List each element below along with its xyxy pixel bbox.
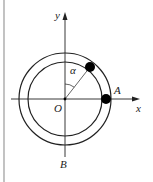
point-B-label: B [60,158,67,170]
x-axis-label: x [135,102,141,114]
angle-alpha-label: α [70,64,76,76]
origin-label: O [54,102,62,114]
point-A-label: A [113,84,121,96]
y-axis-label: y [54,9,60,21]
x-axis-arrow-icon [132,97,140,102]
ball-upper [85,62,95,72]
angle-arc [65,84,74,87]
origin-dot [64,98,67,101]
ball-at-A [101,94,111,104]
circular-track-diagram: y x O A B α [0,0,153,182]
y-axis-arrow-icon [63,12,68,20]
radius-line [65,67,90,99]
